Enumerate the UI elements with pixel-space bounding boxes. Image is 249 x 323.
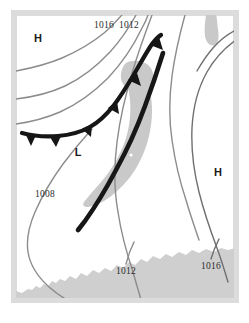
cloud-band-gap-speck	[129, 153, 132, 156]
pressure-center-high-left: H	[34, 32, 42, 44]
pressure-center-high-right: H	[214, 166, 222, 178]
weather-chart-root: H L H 1016 1012 1008 1012 1016	[0, 0, 249, 323]
isobar-label-1012-bottom: 1012	[116, 266, 136, 276]
synoptic-weather-map: H L H 1016 1012 1008 1012 1016	[0, 0, 249, 323]
isobar-label-1012-top: 1012	[119, 20, 139, 30]
isobar-label-1016-top: 1016	[94, 20, 114, 30]
isobar-label-1016-bottom: 1016	[201, 261, 221, 271]
cloud-patch-top-right	[205, 15, 219, 46]
isobar-label-1008-left: 1008	[35, 189, 55, 199]
pressure-center-low: L	[75, 146, 82, 158]
